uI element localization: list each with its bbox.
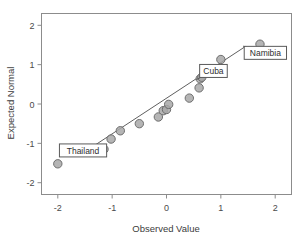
x-tick-label: 0 bbox=[164, 203, 169, 213]
y-tick-label: -2 bbox=[26, 178, 34, 188]
y-axis-ticks bbox=[38, 25, 42, 182]
data-point bbox=[195, 84, 203, 92]
data-point bbox=[116, 127, 124, 135]
x-tick-label: 2 bbox=[273, 203, 278, 213]
data-point bbox=[164, 100, 172, 108]
x-tick-label: 1 bbox=[218, 203, 223, 213]
y-axis-tick-labels: 210-1-2 bbox=[26, 21, 34, 188]
data-point bbox=[135, 119, 143, 127]
x-axis-title: Observed Value bbox=[132, 223, 199, 234]
qq-plot-canvas: -2-1012 210-1-2 ThailandCubaNamibia Obse… bbox=[0, 0, 303, 237]
annotation-label: Thailand bbox=[67, 146, 100, 156]
y-axis-title: Expected Normal bbox=[5, 67, 16, 140]
x-axis-ticks bbox=[58, 195, 275, 199]
y-tick-label: 1 bbox=[29, 60, 34, 70]
annotation-label: Namibia bbox=[250, 48, 281, 58]
point-annotations: ThailandCubaNamibia bbox=[59, 46, 286, 157]
y-tick-label: 0 bbox=[29, 100, 34, 110]
x-tick-label: -1 bbox=[108, 203, 116, 213]
x-tick-label: -2 bbox=[54, 203, 62, 213]
data-point bbox=[107, 135, 115, 143]
annotation-label: Cuba bbox=[203, 66, 224, 76]
data-point bbox=[54, 160, 62, 168]
y-tick-label: -1 bbox=[26, 139, 34, 149]
x-axis-tick-labels: -2-1012 bbox=[54, 203, 278, 213]
y-tick-label: 2 bbox=[29, 21, 34, 31]
data-point bbox=[217, 55, 225, 63]
qq-plot-figure: -2-1012 210-1-2 ThailandCubaNamibia Obse… bbox=[0, 0, 303, 237]
data-point bbox=[185, 94, 193, 102]
